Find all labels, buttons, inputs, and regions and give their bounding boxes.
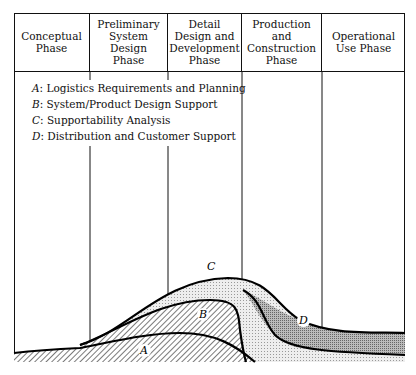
legend-key: B <box>32 98 40 110</box>
legend-text: : Distribution and Customer Support <box>40 130 235 142</box>
label-d: D <box>298 314 308 327</box>
legend-item-b: B: System/Product Design Support <box>32 96 246 112</box>
legend-text: : Supportability Analysis <box>40 114 170 126</box>
label-a: A <box>139 344 148 357</box>
legend-item-d: D: Distribution and Customer Support <box>32 128 246 144</box>
curves-chart: B C A D <box>0 0 416 375</box>
label-c: C <box>207 260 216 273</box>
legend: A: Logistics Requirements and Planning B… <box>32 80 246 144</box>
legend-key: A <box>32 82 40 94</box>
legend-item-c: C: Supportability Analysis <box>32 112 246 128</box>
legend-text: : Logistics Requirements and Planning <box>40 82 246 94</box>
legend-item-a: A: Logistics Requirements and Planning <box>32 80 246 96</box>
legend-key: C <box>32 114 40 126</box>
label-b: B <box>198 308 207 321</box>
legend-text: : System/Product Design Support <box>40 98 218 110</box>
